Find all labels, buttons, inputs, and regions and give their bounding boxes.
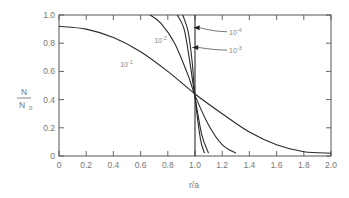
x-tick-label: 1.4 [243, 160, 255, 170]
x-axis-title: r/a [189, 180, 199, 190]
curve-10e-3 [177, 15, 208, 153]
y-axis-title: N N 0 [17, 87, 33, 111]
curve-label: 10-4 [229, 27, 242, 36]
x-tick-label: 1.0 [189, 160, 201, 170]
curve-label: 10-2 [154, 35, 167, 44]
curve-label: 10-3 [229, 45, 242, 54]
data-curves [59, 15, 331, 156]
line-chart: 00.20.40.60.81.01.21.41.61.82.000.20.40.… [0, 0, 349, 198]
y-tick-label: 0 [50, 151, 55, 161]
svg-text:0: 0 [29, 105, 33, 111]
curve-label: 10-1 [120, 59, 133, 68]
x-tick-label: 0.2 [80, 160, 92, 170]
svg-text:N: N [19, 100, 25, 110]
svg-text:N: N [21, 87, 27, 97]
x-tick-label: 0.4 [107, 160, 119, 170]
x-tick-label: 0.6 [135, 160, 147, 170]
x-tick-label: 0 [57, 160, 62, 170]
x-tick-label: 1.6 [271, 160, 283, 170]
x-tick-label: 2.0 [325, 160, 337, 170]
x-tick-label: 1.8 [298, 160, 310, 170]
curve-labels: 10-110-210-410-3 [120, 25, 241, 68]
y-tick-label: 0.2 [43, 123, 55, 133]
y-tick-label: 0.4 [43, 95, 55, 105]
y-tick-label: 0.8 [43, 38, 55, 48]
y-tick-label: 0.6 [43, 66, 55, 76]
x-tick-label: 0.8 [162, 160, 174, 170]
y-tick-label: 1.0 [43, 10, 55, 20]
x-tick-label: 1.2 [216, 160, 228, 170]
